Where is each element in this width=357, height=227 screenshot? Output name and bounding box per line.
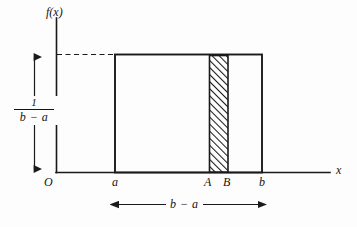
height-fraction-label: 1 b − a	[10, 96, 58, 125]
fraction-numerator: 1	[10, 97, 58, 108]
x-axis-label: x	[336, 164, 341, 176]
y-axis-label: f(x)	[46, 6, 63, 18]
width-measure-label: b − a	[166, 197, 203, 212]
origin-label: O	[44, 176, 53, 188]
hatched-strip	[210, 56, 229, 173]
x-tick-label-a: a	[112, 176, 118, 188]
fraction-denominator: b − a	[10, 111, 58, 124]
x-tick-label-b: b	[259, 176, 265, 188]
uniform-distribution-figure: f(x) x O a A B b 1 b − a b − a	[0, 0, 357, 227]
x-tick-label-B: B	[223, 176, 230, 188]
density-rectangle	[115, 55, 262, 173]
x-tick-label-A: A	[204, 176, 211, 188]
